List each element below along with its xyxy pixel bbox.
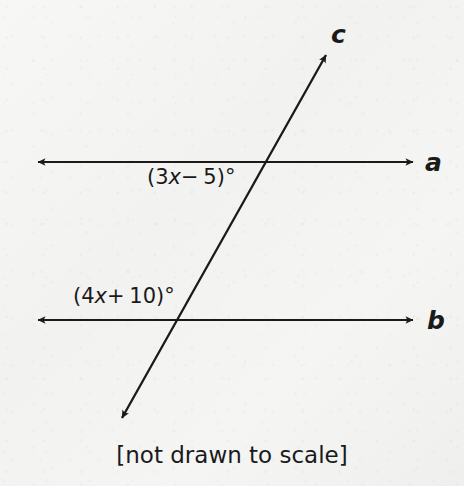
line-label-b: b [427, 308, 445, 333]
angle-bottom-open-paren: ( [73, 284, 81, 308]
angle-top-variable: x [169, 165, 181, 189]
geometry-figure: a b c (3x− 5)° (4x+ 10)° [not drawn to s… [0, 0, 464, 486]
angle-expression-top: (3x− 5)° [147, 167, 235, 188]
angle-top-open-paren: ( [147, 165, 155, 189]
angle-top-close-paren: ) [217, 165, 225, 189]
angle-bottom-constant: 10 [129, 284, 156, 308]
angle-top-constant: 5 [203, 165, 216, 189]
angle-bottom-operator: + [107, 284, 125, 308]
angle-bottom-variable: x [95, 284, 107, 308]
line-c-transversal [122, 55, 326, 418]
angle-bottom-coefficient: 4 [81, 284, 94, 308]
angle-bottom-degree-symbol: ° [164, 284, 175, 308]
figure-caption: [not drawn to scale] [0, 442, 464, 468]
line-label-c: c [331, 22, 346, 47]
line-label-a: a [425, 150, 442, 175]
angle-top-coefficient: 3 [155, 165, 168, 189]
angle-top-operator: − [181, 165, 199, 189]
diagram-canvas [0, 0, 464, 486]
angle-expression-bottom: (4x+ 10)° [73, 286, 175, 307]
angle-top-degree-symbol: ° [225, 165, 236, 189]
